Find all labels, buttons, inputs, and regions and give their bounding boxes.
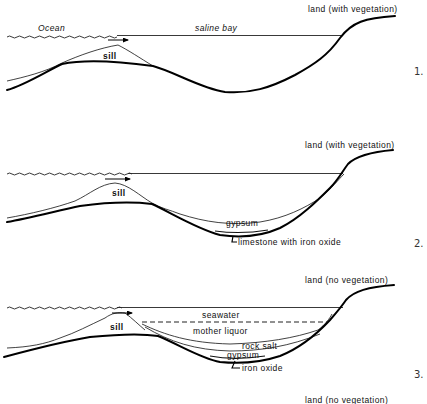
sill-label: sill: [110, 322, 123, 332]
bedrock-profile: [7, 150, 393, 236]
land-label: land (with vegetation): [308, 4, 398, 14]
sill-label: sill: [103, 51, 116, 61]
gypsum-label: gypsum: [227, 350, 259, 360]
panel-1: Ocean saline bay sill land (with vegetat…: [7, 4, 424, 92]
land-label: land (no vegetation): [305, 275, 388, 285]
land-label: land (no vegetation): [305, 395, 388, 404]
panel-number: 1.: [414, 66, 424, 77]
bay-label: saline bay: [195, 23, 238, 33]
panel-4-partial: land (no vegetation): [305, 395, 388, 404]
gypsum-label: gypsum: [226, 218, 258, 228]
ocean-label: Ocean: [38, 23, 65, 33]
seawater-label: seawater: [202, 310, 240, 320]
gypsum-layer: [215, 230, 268, 232]
panel-number: 2.: [414, 238, 424, 249]
land-label: land (with vegetation): [305, 140, 395, 150]
panel-number: 3.: [414, 369, 424, 380]
ocean-wave-line: [7, 307, 122, 309]
mother-liquor-label: mother liquor: [193, 326, 248, 336]
ocean-wave-line: [7, 36, 117, 38]
sill-label: sill: [112, 188, 125, 198]
panel-3: sill seawater mother liquor rock salt gy…: [4, 275, 424, 380]
sill-outline: [7, 313, 145, 348]
ocean-wave-line: [7, 173, 132, 175]
evaporite-diagram: Ocean saline bay sill land (with vegetat…: [0, 0, 427, 404]
bedrock-profile: [4, 285, 394, 363]
panel-2: sill gypsum limestone with iron oxide la…: [7, 140, 424, 249]
iron-oxide-label: iron oxide: [242, 363, 283, 373]
limestone-label: limestone with iron oxide: [238, 237, 341, 247]
